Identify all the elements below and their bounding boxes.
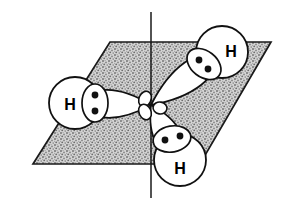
hydrogen-label-left: H bbox=[64, 96, 76, 113]
electron-dot-upper-right-2 bbox=[205, 66, 212, 73]
hydrogen-label-lower-middle: H bbox=[174, 160, 186, 177]
hydrogen-label-upper-right: H bbox=[225, 43, 237, 60]
diagram-canvas: HHH bbox=[0, 0, 293, 208]
electron-dot-left-2 bbox=[92, 108, 99, 115]
electron-dot-left-1 bbox=[92, 92, 99, 99]
electron-dot-lower-middle-2 bbox=[177, 133, 184, 140]
orbital-diagram-figure: HHH bbox=[0, 0, 293, 208]
electron-dot-upper-right-1 bbox=[196, 57, 203, 64]
electron-dot-lower-middle-1 bbox=[162, 137, 169, 144]
hydrogen-atom-left: H bbox=[49, 77, 108, 129]
bonding-pair-ellipse-left bbox=[82, 84, 108, 122]
